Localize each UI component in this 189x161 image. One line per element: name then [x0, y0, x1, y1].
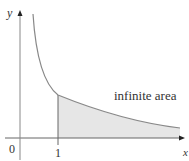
- tick-label-1: 1: [55, 147, 61, 159]
- graph: [0, 0, 189, 161]
- x-axis-label: x: [183, 146, 188, 158]
- y-axis-arrow-icon: [18, 10, 23, 16]
- x-axis-arrow-icon: [179, 136, 185, 141]
- y-axis-label: y: [7, 7, 12, 19]
- origin-label: 0: [9, 143, 15, 155]
- curve: [33, 14, 180, 128]
- region-label: infinite area: [114, 90, 176, 102]
